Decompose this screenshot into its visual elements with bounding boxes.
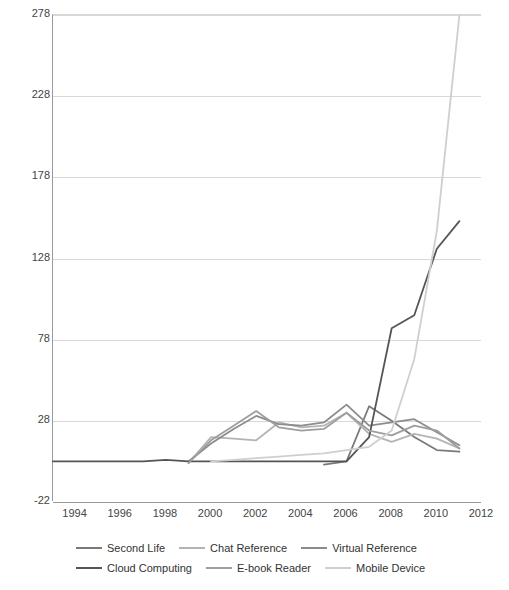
- legend-item[interactable]: Chat Reference: [179, 542, 287, 554]
- x-axis-labels: 1994199619982000200220042006200820102012: [0, 0, 509, 590]
- x-tick-label: 2012: [461, 508, 501, 519]
- legend-label: Second Life: [107, 542, 165, 554]
- legend-label: E-book Reader: [237, 562, 311, 574]
- legend-item[interactable]: Mobile Device: [325, 562, 425, 574]
- x-tick-label: 2002: [235, 508, 275, 519]
- legend-item[interactable]: Cloud Computing: [76, 562, 192, 574]
- x-tick-label: 2000: [190, 508, 230, 519]
- x-tick-label: 2010: [416, 508, 456, 519]
- x-tick-label: 2008: [371, 508, 411, 519]
- legend-item[interactable]: Second Life: [76, 542, 165, 554]
- legend-swatch: [301, 547, 327, 549]
- legend-swatch: [76, 567, 102, 569]
- x-tick-label: 1996: [100, 508, 140, 519]
- legend-label: Virtual Reference: [332, 542, 417, 554]
- legend-swatch: [325, 567, 351, 569]
- x-tick-label: 2004: [280, 508, 320, 519]
- legend-swatch: [206, 567, 232, 569]
- chart-legend: Second LifeChat ReferenceVirtual Referen…: [76, 538, 476, 578]
- x-tick-label: 2006: [326, 508, 366, 519]
- legend-item[interactable]: Virtual Reference: [301, 542, 417, 554]
- legend-swatch: [76, 547, 102, 549]
- legend-row: Cloud ComputingE-book ReaderMobile Devic…: [76, 558, 476, 578]
- line-chart: 2782281781287828-22 19941996199820002002…: [0, 0, 509, 590]
- legend-label: Chat Reference: [210, 542, 287, 554]
- legend-label: Cloud Computing: [107, 562, 192, 574]
- legend-swatch: [179, 547, 205, 549]
- legend-label: Mobile Device: [356, 562, 425, 574]
- legend-item[interactable]: E-book Reader: [206, 562, 311, 574]
- x-tick-label: 1994: [55, 508, 95, 519]
- legend-row: Second LifeChat ReferenceVirtual Referen…: [76, 538, 476, 558]
- x-tick-label: 1998: [145, 508, 185, 519]
